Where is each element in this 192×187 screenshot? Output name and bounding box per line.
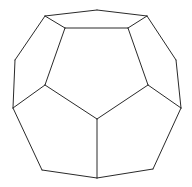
edge-t1-t2: [45, 10, 97, 16]
edge-r1-r2: [176, 60, 181, 108]
edge-m2-c: [97, 85, 148, 119]
edge-b2-b3: [97, 169, 153, 178]
polyhedron-figure: [0, 0, 192, 187]
edge-i2-m2: [128, 28, 148, 85]
edge-i2-t3: [128, 16, 147, 28]
edge-t1-i1: [45, 16, 65, 28]
edge-t1-l1: [15, 16, 45, 60]
edge-b3-r2: [153, 108, 181, 169]
edge-m1-c: [45, 85, 97, 119]
edge-t3-r1: [147, 16, 176, 60]
edge-l2-b1: [13, 108, 42, 170]
edge-m1-l2: [13, 85, 45, 108]
edge-i1-m1: [45, 28, 65, 85]
edge-m2-r2: [148, 85, 181, 108]
edge-b1-b2: [42, 170, 97, 178]
edge-t2-t3: [97, 10, 147, 16]
edges-group: [13, 10, 181, 178]
edge-l1-l2: [13, 60, 15, 108]
